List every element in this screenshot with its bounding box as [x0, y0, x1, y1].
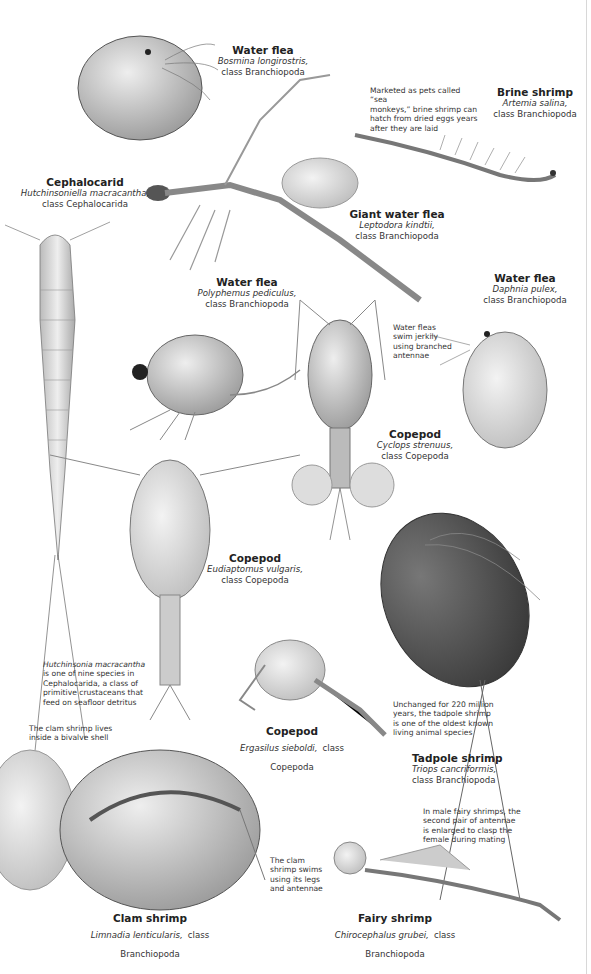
common-name: Water flea: [470, 272, 580, 284]
note-line: female during mating: [423, 835, 533, 844]
note-line: hatch from dried eggs years: [370, 114, 480, 123]
scientific-name: Cyclops strenuus,: [370, 440, 460, 450]
note-line: Water fleas: [393, 323, 463, 332]
note-line: primitive crustaceans that: [43, 688, 153, 697]
scientific-name: Limnadia lenticularis,: [91, 930, 183, 940]
common-name: Giant water flea: [342, 208, 452, 220]
note-hutchinsonia: Hutchinsonia macracantha is one of nine …: [43, 660, 153, 707]
common-name: Copepod: [205, 552, 305, 564]
note-line: is one of nine species in: [43, 669, 153, 678]
common-name: Brine shrimp: [480, 86, 590, 98]
note-line: second pair of antennae: [423, 816, 533, 825]
label-cephalocarid: Cephalocarid Hutchinsoniella macracantha…: [15, 176, 155, 209]
note-tadpole-age: Unchanged for 220 million years, the tad…: [393, 700, 503, 738]
note-clam-shell: The clam shrimp lives inside a bivalve s…: [29, 724, 129, 743]
note-line: Unchanged for 220 million: [393, 700, 503, 709]
common-name: Tadpole shrimp: [412, 752, 512, 764]
scientific-name: Triops cancriformis,: [412, 764, 512, 774]
cephalocarid-illustration: [5, 222, 110, 800]
note-line: years, the tadpole shrimp: [393, 709, 503, 718]
scientific-line: Chirocephalus grubei, class Branchiopoda: [335, 923, 456, 961]
note-line: Cephalocarida, a class of: [43, 679, 153, 688]
polyphemus-illustration: [130, 335, 300, 440]
scientific-name: Eudiaptomus vulgaris,: [205, 564, 305, 574]
note-sea-monkeys: Marketed as pets called “sea monkeys,” b…: [370, 86, 480, 133]
scientific-name: Ergasilus sieboldi,: [240, 743, 317, 753]
scientific-line: Ergasilus sieboldi, class Copepoda: [240, 736, 344, 774]
common-name: Water flea: [192, 276, 302, 288]
label-bosmina: Water flea Bosmina longirostris, class B…: [208, 44, 318, 77]
note-clam-swims: The clam shrimp swims using its legs and…: [270, 856, 330, 894]
note-line: using branched: [393, 342, 463, 351]
common-name: Copepod: [370, 428, 460, 440]
scientific-name: Chirocephalus grubei,: [335, 930, 429, 940]
class-name: class Branchiopoda: [342, 231, 452, 241]
scientific-name: Polyphemus pediculus,: [192, 288, 302, 298]
note-water-fleas-swim: Water fleas swim jerkily using branched …: [393, 323, 463, 361]
note-line: using its legs: [270, 875, 330, 884]
note-line: antennae: [393, 351, 463, 360]
note-line: is enlarged to clasp the: [423, 826, 533, 835]
ergasilus-illustration: [240, 640, 385, 735]
class-name: class Cephalocarida: [15, 199, 155, 209]
note-line: inside a bivalve shell: [29, 733, 129, 742]
scientific-name: Daphnia pulex,: [470, 284, 580, 294]
common-name: Water flea: [208, 44, 318, 56]
artemia-illustration: [355, 135, 556, 180]
note-line: swim jerkily: [393, 332, 463, 341]
note-line: living animal species: [393, 728, 503, 737]
label-daphnia: Water flea Daphnia pulex, class Branchio…: [470, 272, 580, 305]
label-artemia: Brine shrimp Artemia salina, class Branc…: [480, 86, 590, 119]
note-line: after they are laid: [370, 124, 480, 133]
scientific-name: Leptodora kindtii,: [342, 220, 452, 230]
note-line: feed on seafloor detritus: [43, 698, 153, 707]
class-name: class Branchiopoda: [208, 67, 318, 77]
note-line: The clam shrimp lives: [29, 724, 129, 733]
label-leptodora: Giant water flea Leptodora kindtii, clas…: [342, 208, 452, 241]
note-fairy-antennae: In male fairy shrimps, the second pair o…: [423, 807, 533, 845]
cyclops-illustration: [292, 300, 394, 540]
class-name: class Branchiopoda: [470, 295, 580, 305]
note-line: Hutchinsonia macracantha: [43, 660, 153, 669]
bosmina-illustration: [78, 36, 218, 140]
class-name: class Copepoda: [205, 575, 305, 585]
scientific-name: Artemia salina,: [480, 98, 590, 108]
scientific-line: Limnadia lenticularis, class Branchiopod…: [91, 923, 209, 961]
label-limnadia: Clam shrimp Limnadia lenticularis, class…: [60, 912, 240, 962]
note-line: is one of the oldest known: [393, 719, 503, 728]
note-line: shrimp swims: [270, 865, 330, 874]
label-ergasilus: Copepod Ergasilus sieboldi, class Copepo…: [222, 725, 362, 775]
label-polyphemus: Water flea Polyphemus pediculus, class B…: [192, 276, 302, 309]
class-name: class Branchiopoda: [192, 299, 302, 309]
note-line: monkeys,” brine shrimp can: [370, 105, 480, 114]
label-eudiaptomus: Copepod Eudiaptomus vulgaris, class Cope…: [205, 552, 305, 585]
class-name: class Copepoda: [370, 451, 460, 461]
note-line: and antennae: [270, 884, 330, 893]
scientific-name: Bosmina longirostris,: [208, 56, 318, 66]
note-line: Marketed as pets called “sea: [370, 86, 480, 105]
class-name: class Branchiopoda: [480, 109, 590, 119]
note-line: In male fairy shrimps, the: [423, 807, 533, 816]
fairy-shrimp-illustration: [334, 842, 560, 920]
label-triops: Tadpole shrimp Triops cancriformis, clas…: [412, 752, 512, 785]
common-name: Cephalocarid: [15, 176, 155, 188]
label-chirocephalus: Fairy shrimp Chirocephalus grubei, class…: [310, 912, 480, 962]
class-name: class Branchiopoda: [412, 775, 512, 785]
note-line: The clam: [270, 856, 330, 865]
scientific-name: Hutchinsoniella macracantha,: [15, 188, 155, 198]
label-cyclops: Copepod Cyclops strenuus, class Copepoda: [370, 428, 460, 461]
